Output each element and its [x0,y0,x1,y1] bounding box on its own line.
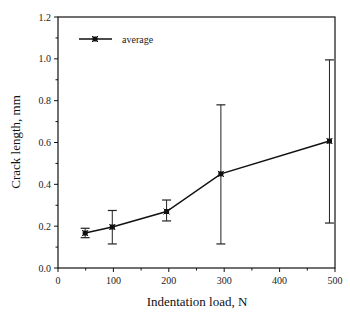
x-tick-label: 200 [161,275,176,286]
legend-label: average [122,34,154,45]
crack-length-chart: 01002003004005000.00.20.40.60.81.01.2 av… [0,0,350,318]
data-series [82,138,332,236]
x-tick-label: 100 [106,275,121,286]
y-tick-label: 0.0 [39,263,52,274]
y-tick-label: 0.8 [39,95,52,106]
y-tick-label: 0.2 [39,221,52,232]
y-tick-label: 1.0 [39,53,52,64]
series-line [85,141,329,233]
y-tick-label: 1.2 [39,12,52,23]
x-axis-title: Indentation load, N [147,294,248,309]
x-tick-label: 400 [272,275,287,286]
y-axis-title: Crack length, mm [8,95,23,189]
legend: average [79,34,154,45]
y-tick-label: 0.4 [39,179,52,190]
y-tick-label: 0.6 [39,137,52,148]
x-tick-label: 300 [217,275,232,286]
plot-axes: 01002003004005000.00.20.40.60.81.01.2 [39,12,343,287]
legend-marker-icon [92,36,98,42]
x-tick-label: 0 [56,275,61,286]
x-tick-label: 500 [328,275,343,286]
